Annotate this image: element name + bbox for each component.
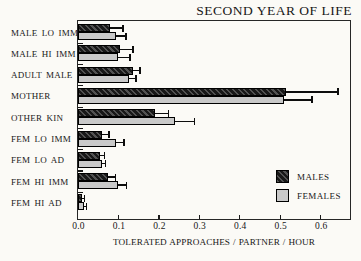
error-bar-cap bbox=[122, 25, 124, 32]
figure: SECOND YEAR OF LIFE MALE LO IMMMALE HI I… bbox=[0, 0, 361, 261]
x-axis-tick bbox=[320, 215, 321, 220]
category-label-fem-hi-imm: FEM HI IMM bbox=[11, 177, 69, 187]
error-bar-cap bbox=[104, 152, 106, 159]
error-bar-cap bbox=[125, 33, 127, 40]
bar-males-adult-male bbox=[78, 67, 133, 75]
males-swatch-icon bbox=[276, 170, 289, 183]
x-tick-label-0.4: 0.4 bbox=[234, 221, 246, 231]
error-bar-cap bbox=[194, 118, 196, 125]
legend-label-males: MALES bbox=[297, 172, 330, 182]
x-tick-label-0.3: 0.3 bbox=[194, 221, 206, 231]
legend: MALES FEMALES bbox=[276, 170, 341, 208]
y-axis-tick bbox=[78, 149, 83, 150]
error-bar-females-mother bbox=[284, 99, 312, 100]
bar-females-male-lo-imm bbox=[78, 32, 116, 40]
bar-females-fem-lo-imm bbox=[78, 139, 116, 147]
bar-females-fem-lo-ad bbox=[78, 160, 102, 168]
x-axis-tick bbox=[280, 215, 281, 220]
bar-males-mother bbox=[78, 88, 286, 96]
legend-item-males: MALES bbox=[276, 170, 341, 183]
category-label-mother: MOTHER bbox=[11, 91, 51, 101]
x-axis-tick bbox=[199, 215, 200, 220]
y-axis-tick bbox=[78, 43, 83, 44]
error-bar-cap bbox=[115, 174, 117, 181]
y-axis-tick bbox=[78, 192, 83, 193]
x-axis-tick bbox=[158, 215, 159, 220]
category-label-male-hi-imm: MALE HI IMM bbox=[11, 49, 76, 59]
error-bar-cap bbox=[86, 203, 88, 210]
error-bar-cap bbox=[132, 46, 134, 53]
chart-title: SECOND YEAR OF LIFE bbox=[196, 3, 352, 19]
y-axis-tick bbox=[78, 107, 83, 108]
error-bar-males-mother bbox=[286, 91, 339, 92]
y-axis-tick bbox=[78, 85, 83, 86]
x-tick-label-0.0: 0.0 bbox=[72, 221, 84, 231]
legend-item-females: FEMALES bbox=[276, 189, 341, 202]
bar-males-fem-lo-ad bbox=[78, 152, 100, 160]
error-bar-cap bbox=[123, 139, 125, 146]
bar-females-male-hi-imm bbox=[78, 53, 118, 61]
error-bar-cap bbox=[108, 131, 110, 138]
y-axis-tick bbox=[78, 128, 83, 129]
error-bar-cap bbox=[84, 195, 86, 202]
x-tick-label-0.5: 0.5 bbox=[274, 221, 286, 231]
bar-males-fem-hi-imm bbox=[78, 173, 108, 181]
bar-males-fem-lo-imm bbox=[78, 131, 102, 139]
females-swatch-icon bbox=[276, 189, 289, 202]
error-bar-cap bbox=[337, 88, 339, 95]
category-label-male-lo-imm: MALE LO IMM bbox=[11, 28, 78, 38]
category-label-fem-hi-ad: FEM HI AD bbox=[11, 198, 62, 208]
error-bar-cap bbox=[168, 110, 170, 117]
x-tick-label-0.1: 0.1 bbox=[113, 221, 125, 231]
x-axis-tick bbox=[239, 215, 240, 220]
bar-females-adult-male bbox=[78, 75, 129, 83]
bar-females-mother bbox=[78, 96, 284, 104]
error-bar-cap bbox=[311, 96, 313, 103]
x-tick-label-0.2: 0.2 bbox=[153, 221, 165, 231]
error-bar-cap bbox=[126, 182, 128, 189]
x-axis-tick bbox=[118, 215, 119, 220]
y-axis-tick bbox=[78, 170, 83, 171]
bar-males-male-lo-imm bbox=[78, 24, 110, 32]
category-label-fem-lo-ad: FEM LO AD bbox=[11, 155, 64, 165]
bar-females-fem-hi-imm bbox=[78, 181, 118, 189]
error-bar-cap bbox=[139, 67, 141, 74]
error-bar-cap bbox=[129, 54, 131, 61]
category-label-other-kin: OTHER KIN bbox=[11, 113, 63, 123]
x-axis-title: TOLERATED APPROACHES / PARTNER / HOUR bbox=[77, 237, 351, 247]
y-axis-tick bbox=[78, 64, 83, 65]
error-bar-females-other-kin bbox=[175, 121, 195, 122]
category-label-fem-lo-imm: FEM LO IMM bbox=[11, 134, 71, 144]
x-tick-label-0.6: 0.6 bbox=[315, 221, 327, 231]
category-label-adult-male: ADULT MALE bbox=[11, 70, 73, 80]
legend-label-females: FEMALES bbox=[297, 191, 341, 201]
bar-females-other-kin bbox=[78, 117, 175, 125]
error-bar-cap bbox=[105, 160, 107, 167]
bar-males-male-hi-imm bbox=[78, 45, 120, 53]
bar-males-other-kin bbox=[78, 109, 155, 117]
error-bar-cap bbox=[135, 75, 137, 82]
